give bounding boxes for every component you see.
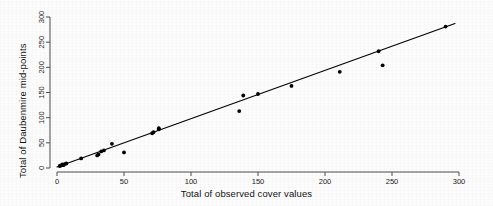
x-axis-ticks: 050100150200250300 — [55, 172, 465, 186]
data-point — [338, 70, 342, 74]
data-point — [377, 49, 381, 53]
data-point — [290, 84, 294, 88]
data-point — [256, 92, 260, 96]
data-point — [64, 162, 68, 166]
y-tick-label: 200 — [37, 61, 46, 74]
data-point — [444, 25, 448, 29]
x-tick-label: 0 — [55, 177, 59, 186]
data-point — [152, 130, 156, 134]
y-tick-label: 0 — [37, 166, 46, 170]
x-axis-title: Total of observed cover values — [0, 188, 493, 199]
x-tick-label: 250 — [386, 177, 399, 186]
data-point — [79, 157, 83, 161]
x-tick-label: 50 — [120, 177, 128, 186]
x-tick-label: 100 — [185, 177, 198, 186]
y-axis-title: Total of Daubenmire mid-points — [17, 44, 28, 178]
data-point — [237, 109, 241, 113]
x-tick-label: 200 — [319, 177, 332, 186]
data-point — [110, 142, 114, 146]
y-tick-label: 100 — [37, 111, 46, 124]
data-point — [102, 148, 106, 152]
x-tick-label: 300 — [453, 177, 466, 186]
data-point — [241, 94, 245, 98]
plot-canvas: 050100150200250300 050100150200250300 — [0, 0, 493, 206]
x-tick-label: 150 — [252, 177, 265, 186]
regression-line — [57, 24, 455, 167]
data-point — [381, 63, 385, 67]
scatter-plot-figure: 050100150200250300 050100150200250300 To… — [0, 0, 493, 206]
y-tick-label: 150 — [37, 86, 46, 99]
y-tick-label: 300 — [37, 11, 46, 24]
data-point — [122, 150, 126, 154]
y-axis-ticks: 050100150200250300 — [37, 11, 50, 170]
y-tick-label: 50 — [37, 139, 46, 147]
y-tick-label: 250 — [37, 36, 46, 49]
data-point — [157, 126, 161, 130]
data-point — [97, 153, 101, 157]
